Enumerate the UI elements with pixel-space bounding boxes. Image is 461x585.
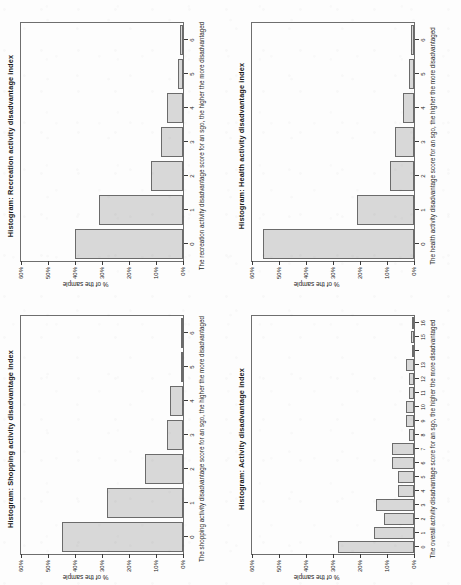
y-tick xyxy=(129,261,130,265)
x-tick-label: 13 xyxy=(420,362,426,368)
plot-area xyxy=(21,316,183,554)
y-tick-label: 0% xyxy=(180,267,186,276)
y-tick-label: 0% xyxy=(411,267,417,276)
x-tick xyxy=(415,504,419,505)
x-tick xyxy=(415,378,419,379)
histogram-bar xyxy=(181,318,183,348)
histogram-recreation: Histogram: Recreation activity disadvant… xyxy=(0,0,230,292)
x-tick xyxy=(415,209,419,210)
y-tick-label: 30% xyxy=(330,267,336,279)
histogram-bar xyxy=(181,352,183,382)
x-tick xyxy=(184,400,188,401)
x-tick-label: 6 xyxy=(420,38,426,41)
chart-panel-recreation: Histogram: Recreation activity disadvant… xyxy=(0,0,230,292)
x-tick-label: 6 xyxy=(189,331,195,334)
x-tick xyxy=(415,434,419,435)
x-tick xyxy=(415,73,419,74)
x-tick-label: 4 xyxy=(420,106,426,109)
histogram-bar xyxy=(409,429,414,441)
x-tick xyxy=(184,209,188,210)
x-tick-label: 2 xyxy=(420,174,426,177)
y-tick-label: 50% xyxy=(45,560,51,572)
y-tick xyxy=(387,261,388,265)
y-tick-label: 40% xyxy=(72,267,78,279)
y-tick xyxy=(102,554,103,558)
histogram-bar xyxy=(180,25,183,55)
histogram-bar xyxy=(392,457,414,469)
x-tick xyxy=(184,141,188,142)
histogram-bar xyxy=(398,485,414,497)
x-axis-title: The overall activity disadvantage score … xyxy=(429,307,437,571)
x-tick xyxy=(184,536,188,537)
histogram-bar xyxy=(374,527,415,539)
histogram-bar xyxy=(403,93,414,123)
y-tick-label: 10% xyxy=(153,267,159,279)
x-tick-label: 4 xyxy=(420,490,426,493)
histogram-bar xyxy=(167,93,183,123)
y-tick-label: 60% xyxy=(249,267,255,279)
x-tick xyxy=(184,502,188,503)
x-tick-label: 9 xyxy=(420,420,426,423)
x-tick xyxy=(415,350,419,351)
histogram-bar xyxy=(167,420,183,450)
x-tick xyxy=(184,366,188,367)
histogram-bar xyxy=(338,541,414,553)
chart-title: Histogram: Shopping activity disadvantag… xyxy=(6,293,15,585)
x-tick-label: 1 xyxy=(189,501,195,504)
x-tick-label: 1 xyxy=(420,208,426,211)
histogram-bar xyxy=(395,127,414,157)
chart-title: Histogram: Health activity disadvantage … xyxy=(237,0,246,292)
histogram-bar xyxy=(406,401,414,413)
y-tick xyxy=(333,261,334,265)
plot-area xyxy=(252,316,414,554)
x-tick-label: 12 xyxy=(420,376,426,382)
histogram-bar xyxy=(376,499,414,511)
x-tick xyxy=(415,322,419,323)
y-tick-label: 40% xyxy=(303,560,309,572)
histogram-bar xyxy=(411,331,414,343)
x-tick-label: 0 xyxy=(420,546,426,549)
x-tick xyxy=(184,73,188,74)
y-tick-label: 10% xyxy=(384,560,390,572)
x-tick-label: 4 xyxy=(189,399,195,402)
y-tick-label: 0% xyxy=(180,560,186,569)
x-tick xyxy=(184,468,188,469)
histogram-bar xyxy=(390,161,414,191)
histogram-bar xyxy=(409,387,414,399)
x-tick-label: 3 xyxy=(420,504,426,507)
x-tick-label: 1 xyxy=(420,532,426,535)
x-tick-label: 5 xyxy=(420,72,426,75)
x-tick-label: 8 xyxy=(420,434,426,437)
y-tick xyxy=(156,261,157,265)
x-tick-label: 11 xyxy=(420,390,426,395)
y-tick xyxy=(360,261,361,265)
y-axis: 0%10%20%30%40%50%60% xyxy=(20,261,184,262)
x-axis-title: The recreation activity disadvantage sco… xyxy=(198,14,206,278)
x-axis: 0123456 xyxy=(184,22,185,262)
chart-title: Histogram: Activity disadvantage index xyxy=(237,293,246,585)
y-axis-title: % of the sample xyxy=(26,574,146,581)
x-tick-label: 0 xyxy=(189,535,195,538)
histogram-bar xyxy=(412,317,414,329)
chart-title: Histogram: Recreation activity disadvant… xyxy=(6,0,15,292)
x-tick-label: 5 xyxy=(189,72,195,75)
x-tick xyxy=(415,107,419,108)
histogram-bar xyxy=(409,59,414,89)
histogram-bar xyxy=(409,373,414,385)
y-tick-label: 20% xyxy=(357,560,363,572)
x-tick-label: 3 xyxy=(189,433,195,436)
scanned-page: Histogram: Recreation activity disadvant… xyxy=(0,0,461,585)
histogram-bar xyxy=(161,127,183,157)
x-tick xyxy=(415,175,419,176)
x-tick-label: 0 xyxy=(189,242,195,245)
x-tick xyxy=(415,406,419,407)
y-tick-label: 50% xyxy=(276,560,282,572)
y-tick xyxy=(156,554,157,558)
x-tick xyxy=(415,476,419,477)
y-axis: 0%10%20%30%40%50%60% xyxy=(251,261,415,262)
histogram-bar xyxy=(178,59,183,89)
chart-panel-health: Histogram: Health activity disadvantage … xyxy=(231,0,461,292)
x-axis-title: The health activity disadvantage score f… xyxy=(429,14,437,278)
x-axis: 0123456 xyxy=(184,315,185,555)
y-tick xyxy=(129,554,130,558)
